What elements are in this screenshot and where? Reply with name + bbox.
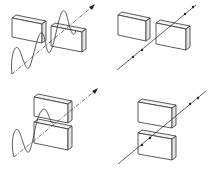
arrow-head-icon [89,4,95,10]
top-block [34,94,72,123]
arrow-head-icon [92,88,98,94]
right-block [156,20,190,50]
dot-marker [197,97,199,99]
panel-top-left [11,4,95,74]
bottom-block [34,119,72,150]
left-block [118,12,150,41]
right-block [51,23,86,52]
dot-marker [149,137,151,139]
dot-marker [132,56,134,58]
panel-bottom-left [12,88,98,157]
dot-marker [141,144,143,146]
dot-marker [184,13,186,15]
bottom-block [138,130,176,160]
panel-top-right [117,5,196,70]
dot-marker [192,6,194,8]
polarization-slit-diagram [0,0,216,178]
dot-marker [141,49,143,51]
top-block [138,99,176,128]
left-block [12,15,46,43]
panel-bottom-right [118,91,206,164]
dot-marker [189,103,191,105]
